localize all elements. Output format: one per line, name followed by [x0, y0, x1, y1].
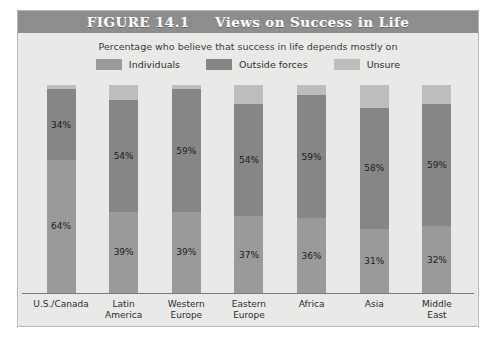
bar-column-africa: 59%36%	[283, 85, 341, 293]
bar-value-label: 39%	[114, 247, 134, 257]
bar-value-label: 37%	[239, 250, 259, 260]
bar-segment-unsure	[297, 85, 326, 95]
bar-value-label: 64%	[51, 221, 71, 231]
legend-item-unsure: Unsure	[334, 59, 401, 70]
bar-value-label: 31%	[364, 256, 384, 266]
bar-column-u-s-canada: 34%64%	[32, 85, 90, 293]
bar-stack: 54%37%	[234, 85, 263, 293]
bar-stack: 54%39%	[109, 85, 138, 293]
bar-value-label: 59%	[427, 160, 447, 170]
legend-label-outside_forces: Outside forces	[239, 59, 308, 70]
figure-subtitle: Percentage who believe that success in l…	[18, 41, 478, 52]
bar-segment-outside-forces: 59%	[297, 95, 326, 218]
bar-stack: 59%36%	[297, 85, 326, 293]
chart-plot-area: 34%64%54%39%59%39%54%37%59%36%58%31%59%3…	[18, 85, 478, 293]
page-title: FIGURE 14.1 Views on Success in Life	[87, 14, 409, 30]
bar-segment-outside-forces: 58%	[360, 108, 389, 229]
bar-segment-individuals: 39%	[109, 212, 138, 293]
x-axis-label-eastern-europe: EasternEurope	[220, 299, 278, 321]
bar-segment-unsure	[360, 85, 389, 108]
x-axis-label-africa: Africa	[283, 299, 341, 321]
legend-swatch-unsure	[334, 59, 360, 70]
bar-column-latin-america: 54%39%	[95, 85, 153, 293]
x-axis-label-u-s-canada: U.S./Canada	[32, 299, 90, 321]
legend-item-outside_forces: Outside forces	[206, 59, 308, 70]
bar-segment-outside-forces: 54%	[109, 100, 138, 212]
bar-column-eastern-europe: 54%37%	[220, 85, 278, 293]
bar-value-label: 39%	[176, 247, 196, 257]
x-axis-label-asia: Asia	[345, 299, 403, 321]
x-axis-label-middle-east: MiddleEast	[408, 299, 466, 321]
bar-value-label: 58%	[364, 163, 384, 173]
bar-segment-outside-forces: 34%	[47, 89, 76, 160]
bar-value-label: 36%	[302, 251, 322, 261]
bar-segment-unsure	[234, 85, 263, 104]
x-axis-labels: U.S./CanadaLatinAmericaWesternEuropeEast…	[32, 299, 466, 321]
bar-value-label: 54%	[114, 151, 134, 161]
bar-stack: 59%39%	[172, 85, 201, 293]
bar-segment-unsure	[109, 85, 138, 100]
bar-segment-unsure	[422, 85, 451, 104]
bar-segment-outside-forces: 59%	[422, 104, 451, 227]
legend-swatch-individuals	[96, 59, 122, 70]
bar-segment-individuals: 37%	[234, 216, 263, 293]
bar-segment-individuals: 32%	[422, 226, 451, 293]
legend-swatch-outside_forces	[206, 59, 232, 70]
x-axis-label-latin-america: LatinAmerica	[95, 299, 153, 321]
legend-label-unsure: Unsure	[367, 59, 401, 70]
bar-group: 34%64%54%39%59%39%54%37%59%36%58%31%59%3…	[32, 85, 466, 293]
bar-column-western-europe: 59%39%	[157, 85, 215, 293]
bar-stack: 58%31%	[360, 85, 389, 293]
bar-column-middle-east: 59%32%	[408, 85, 466, 293]
x-axis-label-western-europe: WesternEurope	[157, 299, 215, 321]
bar-value-label: 59%	[302, 152, 322, 162]
legend-label-individuals: Individuals	[129, 59, 180, 70]
bar-stack: 34%64%	[47, 85, 76, 293]
bar-column-asia: 58%31%	[345, 85, 403, 293]
figure-title-bar: FIGURE 14.1 Views on Success in Life	[18, 11, 478, 33]
bar-segment-individuals: 64%	[47, 160, 76, 293]
bar-value-label: 32%	[427, 255, 447, 265]
bar-value-label: 54%	[239, 155, 259, 165]
bar-value-label: 34%	[51, 120, 71, 130]
chart-legend: IndividualsOutside forcesUnsure	[18, 59, 478, 70]
bar-value-label: 59%	[176, 146, 196, 156]
figure-panel: FIGURE 14.1 Views on Success in Life Per…	[17, 10, 479, 327]
bar-stack: 59%32%	[422, 85, 451, 293]
x-axis-line	[22, 293, 474, 294]
legend-item-individuals: Individuals	[96, 59, 180, 70]
bar-segment-individuals: 31%	[360, 229, 389, 293]
bar-segment-outside-forces: 54%	[234, 104, 263, 216]
bar-segment-individuals: 39%	[172, 212, 201, 293]
bar-segment-outside-forces: 59%	[172, 89, 201, 212]
bar-segment-individuals: 36%	[297, 218, 326, 293]
